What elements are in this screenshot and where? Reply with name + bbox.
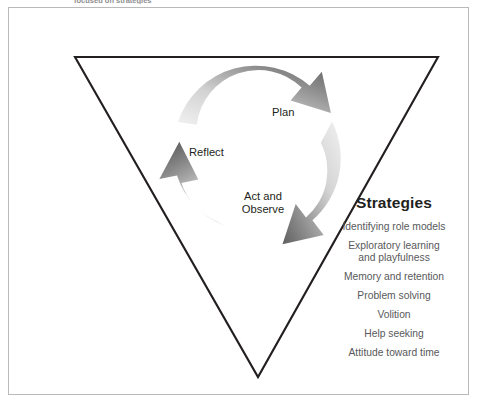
strategy-item: Memory and retention (324, 271, 464, 283)
cycle-label-act-and-observe: Act and Observe (233, 190, 293, 216)
strategies-title: Strategies (324, 194, 464, 212)
strategy-item: Problem solving (324, 290, 464, 302)
strategy-item: Attitude toward time (324, 347, 464, 359)
cycle-label-plan: Plan (272, 106, 294, 119)
figure-canvas: focused on strategies (0, 0, 484, 411)
strategy-item: Exploratory learning and playfulness (324, 240, 464, 265)
strategy-item: Volition (324, 309, 464, 321)
plan-arrow-icon (178, 66, 331, 125)
strategy-item: Help seeking (324, 328, 464, 340)
cycle-label-reflect: Reflect (189, 146, 224, 159)
strategies-panel: Strategies Identifying role models Explo… (324, 194, 464, 366)
strategy-item: Identifying role models (324, 221, 464, 233)
